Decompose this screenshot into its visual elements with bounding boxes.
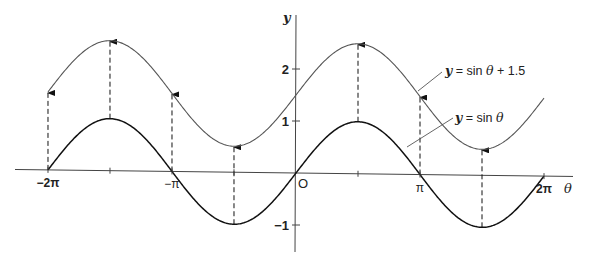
x-tick-label: −2π xyxy=(37,176,60,190)
translation-arrows xyxy=(48,42,482,228)
y-tick-label: 1 xyxy=(282,114,289,129)
y-tick-label: −1 xyxy=(274,218,289,233)
y-axis-label: y xyxy=(282,10,292,25)
y-axis xyxy=(295,15,296,252)
annotation-upper-text: = sin xyxy=(452,64,486,78)
x-tick-label: 2π xyxy=(536,182,552,196)
axes xyxy=(15,15,573,252)
annotation-label-lower: y = sin θ xyxy=(454,110,504,125)
x-axis-label: θ xyxy=(564,181,572,196)
origin-label: O xyxy=(298,176,308,191)
x-tick-label: π xyxy=(416,181,424,195)
tick-labels: −2π−ππ2π21−1 xyxy=(37,62,552,233)
y-tick-label: 2 xyxy=(282,62,289,77)
annotation-pointer-lower xyxy=(407,118,453,147)
annotation-pointer-upper xyxy=(418,72,442,91)
sine-translation-chart: −2π−ππ2π21−1 y = sin θ + 1.5 y = sin θ θ… xyxy=(0,0,589,267)
annotations: y = sin θ + 1.5 y = sin θ xyxy=(407,63,525,147)
annotation-label-upper: y = sin θ + 1.5 xyxy=(444,63,525,78)
curve-sin xyxy=(48,119,544,228)
x-tick-label: −π xyxy=(164,177,179,191)
